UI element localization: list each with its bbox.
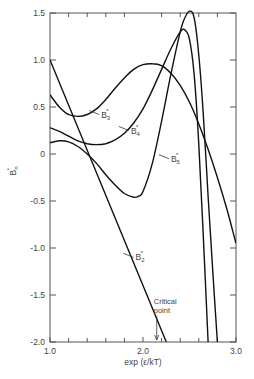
svg-text:Bn*: Bn* (6, 166, 19, 175)
y-tick-label: 0 (40, 149, 45, 159)
x-tick-label: 3.0 (230, 346, 242, 356)
y-tick-label: -1.0 (30, 243, 45, 253)
y-tick-label: 1.5 (33, 8, 45, 18)
series-b3-star (50, 64, 236, 244)
x-tick-label: 2.0 (137, 346, 149, 356)
annotation-text: Critical (154, 297, 177, 306)
series-labels: B2*B3*B4*B5* (89, 108, 180, 264)
label-leader (119, 127, 129, 131)
y-tick-label: 1.0 (33, 55, 45, 65)
y-tick-label: -1.5 (30, 290, 45, 300)
series-label: B5* (171, 152, 181, 165)
line-chart: 1.51.00.50-0.5-1.0-1.5-2.01.02.03.0 B2*B… (0, 0, 254, 379)
series-label: B2* (136, 250, 146, 263)
series-b2-star (50, 60, 166, 342)
series-label: B3* (101, 108, 111, 121)
annotation-text: point (154, 306, 171, 315)
series-label: B4* (131, 124, 141, 137)
data-series (50, 11, 236, 342)
x-tick-label: 1.0 (44, 346, 56, 356)
y-tick-label: -2.0 (30, 337, 45, 347)
axis-ticks: 1.51.00.50-0.5-1.0-1.5-2.01.02.03.0 (30, 8, 242, 356)
chart-container: 1.51.00.50-0.5-1.0-1.5-2.01.02.03.0 B2*B… (0, 0, 254, 379)
plot-axes (50, 13, 236, 342)
y-axis-label: Bn* (6, 166, 19, 175)
y-tick-label: 0.5 (33, 102, 45, 112)
label-leader (124, 253, 134, 257)
plot-frame (50, 13, 236, 342)
y-tick-label: -0.5 (30, 196, 45, 206)
series-b4-star (50, 29, 208, 342)
label-leader (159, 155, 169, 159)
x-axis-label: exp (ε/kT) (124, 357, 161, 367)
